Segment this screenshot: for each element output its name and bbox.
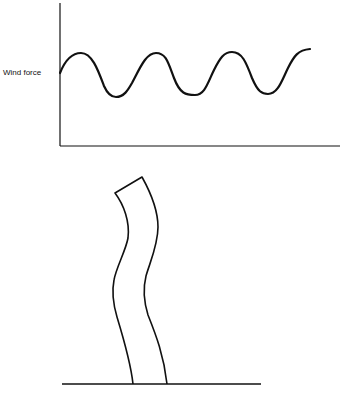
- diagram-canvas: [0, 0, 344, 400]
- wind-force-curve: [60, 49, 310, 97]
- wind-force-graph: [60, 3, 340, 146]
- stalk-outline: [113, 177, 167, 384]
- bending-stalk: [62, 177, 261, 384]
- y-axis-label: Wind force: [3, 68, 41, 77]
